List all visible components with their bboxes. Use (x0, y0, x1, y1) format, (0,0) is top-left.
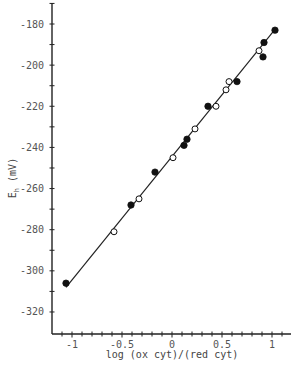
x-axis: -1-0.500.51 (52, 332, 291, 351)
filled-data-point (205, 103, 211, 109)
filled-data-point (234, 78, 240, 84)
y-tick-label: -260 (20, 183, 44, 194)
filled-data-point (260, 54, 266, 60)
filled-data-point (128, 202, 134, 208)
open-data-point (223, 87, 229, 93)
y-tick-label: -300 (20, 265, 44, 276)
y-axis-label-sub: h (13, 188, 21, 192)
svg-text:Eh(mV): Eh(mV) (7, 158, 21, 198)
y-tick-label: -240 (20, 142, 44, 153)
y-axis-label-unit: (mV) (7, 158, 18, 182)
y-axis: -180-200-220-240-260-280-300-320 (20, 3, 55, 334)
x-tick-label: -1 (66, 339, 78, 350)
y-tick-label: -200 (20, 60, 44, 71)
filled-data-point (152, 169, 158, 175)
y-tick-label: -320 (20, 306, 44, 317)
open-data-point (170, 155, 176, 161)
open-data-point (256, 48, 262, 54)
y-tick-label: -220 (20, 101, 44, 112)
open-data-point (136, 196, 142, 202)
filled-data-point (181, 142, 187, 148)
y-axis-label: Eh(mV) (7, 158, 21, 198)
x-axis-label: log (ox cyt)/(red cyt) (106, 349, 238, 360)
y-tick-label: -280 (20, 224, 44, 235)
chart: -180-200-220-240-260-280-300-320 -1-0.50… (0, 0, 300, 367)
x-tick-label: 1 (269, 339, 275, 350)
filled-data-point (63, 280, 69, 286)
filled-data-point (184, 136, 190, 142)
open-data-point (192, 126, 198, 132)
open-data-point (111, 229, 117, 235)
filled-data-point (272, 27, 278, 33)
open-data-point (213, 103, 219, 109)
open-data-point (226, 79, 232, 85)
filled-data-point (261, 39, 267, 45)
y-tick-label: -180 (20, 19, 44, 30)
